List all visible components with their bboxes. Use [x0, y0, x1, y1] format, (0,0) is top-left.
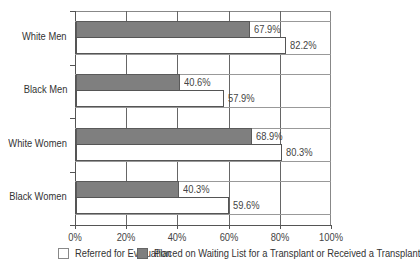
- row-line: [75, 161, 331, 162]
- category-label: White Men: [22, 30, 67, 42]
- category-label: Black Women: [9, 190, 67, 202]
- plot-area: 67.9%82.2%40.6%57.9%68.9%80.3%40.3%59.6%: [75, 11, 331, 225]
- value-label-referred: 82.2%: [290, 39, 317, 51]
- bar-referred: [76, 90, 224, 107]
- y-tick: [70, 11, 75, 12]
- row-line: [75, 107, 331, 108]
- x-axis: [75, 225, 331, 226]
- x-tick-label: 0%: [58, 231, 92, 243]
- value-label-placed: 40.6%: [184, 76, 211, 88]
- x-tick: [331, 225, 332, 229]
- bar-placed: [76, 21, 250, 38]
- bar-referred: [76, 37, 286, 54]
- row-line: [75, 54, 331, 55]
- y-tick: [70, 65, 75, 66]
- bar-referred: [76, 144, 282, 161]
- value-label-referred: 59.6%: [233, 199, 260, 211]
- x-tick-label: 60%: [212, 231, 246, 243]
- x-tick-label: 80%: [263, 231, 297, 243]
- bar-placed: [76, 181, 179, 198]
- legend-label-placed: Placed on Waiting List for a Transplant …: [154, 247, 420, 259]
- y-tick: [70, 172, 75, 173]
- legend: Referred for Evaluation Placed on Waitin…: [0, 248, 395, 264]
- x-tick: [126, 225, 127, 229]
- x-tick-label: 100%: [314, 231, 348, 243]
- x-tick: [75, 225, 76, 229]
- value-label-referred: 80.3%: [286, 146, 313, 158]
- x-tick-label: 20%: [109, 231, 143, 243]
- value-label-placed: 67.9%: [254, 23, 281, 35]
- legend-swatch-referred: [58, 248, 69, 259]
- bar-placed: [76, 74, 180, 91]
- x-tick: [229, 225, 230, 229]
- value-label-placed: 68.9%: [256, 130, 283, 142]
- x-tick: [177, 225, 178, 229]
- x-tick-label: 40%: [160, 231, 194, 243]
- row-line: [75, 214, 331, 215]
- category-label: White Women: [8, 137, 67, 149]
- y-tick: [70, 118, 75, 119]
- x-tick: [280, 225, 281, 229]
- value-label-referred: 57.9%: [228, 92, 255, 104]
- category-label: Black Men: [23, 83, 67, 95]
- value-label-placed: 40.3%: [183, 183, 210, 195]
- bar-placed: [76, 128, 252, 145]
- bar-referred: [76, 197, 229, 214]
- legend-swatch-placed: [137, 248, 148, 259]
